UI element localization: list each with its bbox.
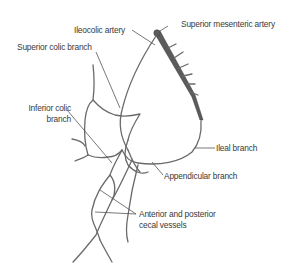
label-appendicular-branch: Appendicular branch [164, 170, 237, 181]
label-inferior-colic-branch: Inferior colic branch [14, 102, 71, 124]
leader-lines [67, 26, 215, 214]
label-cecal-vessels-line2: cecal vessels [139, 219, 216, 230]
label-inferior-colic-line2: branch [14, 113, 71, 124]
label-superior-colic-branch: Superior colic branch [17, 41, 92, 52]
superior-mesenteric-artery-vessel [154, 30, 203, 120]
inferior-colic-branch-vessel [72, 139, 122, 161]
label-cecal-vessels: Anterior and posterior cecal vessels [139, 208, 216, 230]
superior-colic-branch-vessel [85, 65, 140, 155]
label-inferior-colic-line1: Inferior colic [14, 102, 71, 113]
label-superior-mesenteric-artery: Superior mesenteric artery [181, 18, 275, 29]
ileocolic-artery-vessel [120, 36, 201, 164]
cecal-vessels [73, 140, 148, 262]
label-ileal-branch: Ileal branch [216, 142, 257, 153]
label-ileocolic-artery: Ileocolic artery [74, 24, 125, 35]
label-cecal-vessels-line1: Anterior and posterior [139, 208, 216, 219]
